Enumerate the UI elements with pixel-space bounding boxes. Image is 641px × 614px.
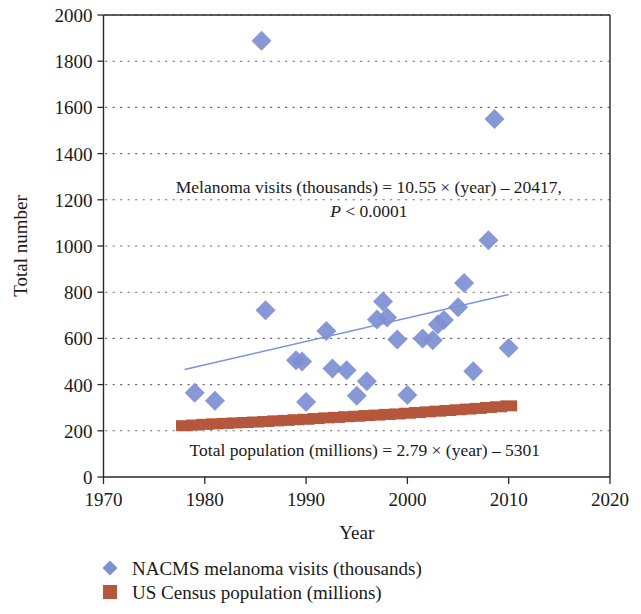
melanoma-marker	[337, 360, 357, 380]
x-tick-label: 1970	[85, 489, 123, 510]
melanoma-marker	[185, 383, 205, 403]
legend-item-label: NACMS melanoma visits (thousands)	[132, 558, 422, 580]
melanoma-marker	[205, 391, 225, 411]
population-equation: Total population (millions) = 2.79 × (ye…	[190, 440, 540, 460]
series-nacms-melanoma-visits	[185, 31, 519, 412]
y-tick-label: 1000	[55, 236, 93, 257]
y-tick-label: 800	[64, 282, 93, 303]
melanoma-marker	[448, 297, 468, 317]
y-axis-title: Total number	[10, 195, 31, 297]
y-tick-label: 1400	[55, 144, 93, 165]
x-tick-label: 2010	[490, 489, 528, 510]
chart-figure: 0200400600800100012001400160018002000197…	[0, 0, 641, 614]
x-axis-title: Year	[339, 522, 375, 543]
pvalue-symbol: P	[329, 201, 341, 221]
melanoma-marker	[296, 392, 316, 412]
x-tick-label: 1990	[287, 489, 325, 510]
melanoma-marker	[454, 273, 474, 293]
y-tick-label: 1800	[55, 51, 93, 72]
x-axis-ticks: 197019801990200020102020	[85, 477, 630, 510]
legend-marker-square-icon	[103, 585, 117, 599]
series-us-census-population	[176, 400, 517, 431]
melanoma-marker	[499, 338, 519, 358]
melanoma-marker	[252, 31, 272, 51]
x-tick-label: 1980	[186, 489, 224, 510]
legend-marker-diamond-icon	[103, 561, 118, 576]
population-marker	[500, 400, 517, 411]
scatter-chart: 0200400600800100012001400160018002000197…	[0, 0, 641, 614]
y-tick-label: 600	[64, 328, 93, 349]
y-tick-label: 1600	[55, 97, 93, 118]
melanoma-marker	[357, 371, 377, 391]
melanoma-marker	[347, 386, 367, 406]
melanoma-equation-line1: Melanoma visits (thousands) = 10.55 × (y…	[176, 177, 562, 197]
y-tick-label: 0	[83, 467, 93, 488]
melanoma-marker	[485, 109, 505, 129]
gridlines	[106, 15, 611, 431]
melanoma-marker	[256, 300, 276, 320]
y-tick-label: 400	[64, 375, 93, 396]
x-tick-label: 2020	[591, 489, 629, 510]
melanoma-marker	[387, 330, 407, 350]
pvalue-value: < 0.0001	[341, 201, 408, 221]
melanoma-marker	[397, 385, 417, 405]
y-tick-label: 2000	[55, 5, 93, 26]
y-axis-ticks: 0200400600800100012001400160018002000	[55, 5, 104, 488]
y-tick-label: 200	[64, 421, 93, 442]
melanoma-marker	[478, 230, 498, 250]
melanoma-marker	[463, 361, 483, 381]
y-tick-label: 1200	[55, 190, 93, 211]
chart-legend: NACMS melanoma visits (thousands)US Cens…	[103, 558, 422, 604]
legend-item-label: US Census population (millions)	[132, 582, 382, 604]
melanoma-pvalue: P < 0.0001	[329, 201, 407, 221]
melanoma-marker	[373, 291, 393, 311]
x-tick-label: 2000	[388, 489, 426, 510]
